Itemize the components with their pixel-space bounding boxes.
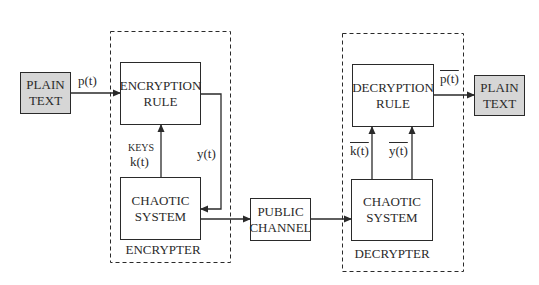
decryption-rule-line1: DECRYPTION [352,80,434,96]
plaintext-input-line1: PLAIN [26,77,64,93]
chaotic-enc-line1: CHAOTIC [132,193,190,209]
chaotic-enc-line2: SYSTEM [135,209,186,225]
signal-k-bar-label: k(t) [350,143,369,158]
keys-label: KEYS [128,142,154,154]
signal-y-label: y(t) [197,146,216,161]
decrypter-group-label: DECRYPTER [351,246,433,261]
chaotic-system-decrypter-label: CHAOTIC SYSTEM [351,179,433,241]
encryption-rule-line1: ENCRYPTION [120,78,202,94]
plaintext-input-label: PLAIN TEXT [20,72,71,114]
signal-y-bar-label: y(t) [389,143,408,158]
plaintext-output-line2: TEXT [483,96,516,112]
encryption-rule-label: ENCRYPTION RULE [120,62,201,125]
signal-k-label: k(t) [130,154,149,169]
chaotic-system-encrypter-label: CHAOTIC SYSTEM [120,177,201,240]
public-channel-label: PUBLIC CHANNEL [250,198,311,241]
chaotic-dec-line1: CHAOTIC [363,194,421,210]
signal-p-bar-label: p(t) [440,71,459,86]
encryption-rule-line2: RULE [144,94,178,110]
plaintext-output-line1: PLAIN [480,80,518,96]
plaintext-output-label: PLAIN TEXT [474,75,525,116]
public-channel-line2: CHANNEL [249,220,311,236]
plaintext-input-line2: TEXT [29,93,62,109]
chaotic-dec-line2: SYSTEM [366,210,417,226]
signal-p-label: p(t) [78,73,97,88]
encrypter-group-label: ENCRYPTER [123,242,203,257]
diagram-canvas [0,0,539,285]
decryption-rule-label: DECRYPTION RULE [352,64,434,127]
public-channel-line1: PUBLIC [257,204,303,220]
decryption-rule-line2: RULE [376,96,410,112]
